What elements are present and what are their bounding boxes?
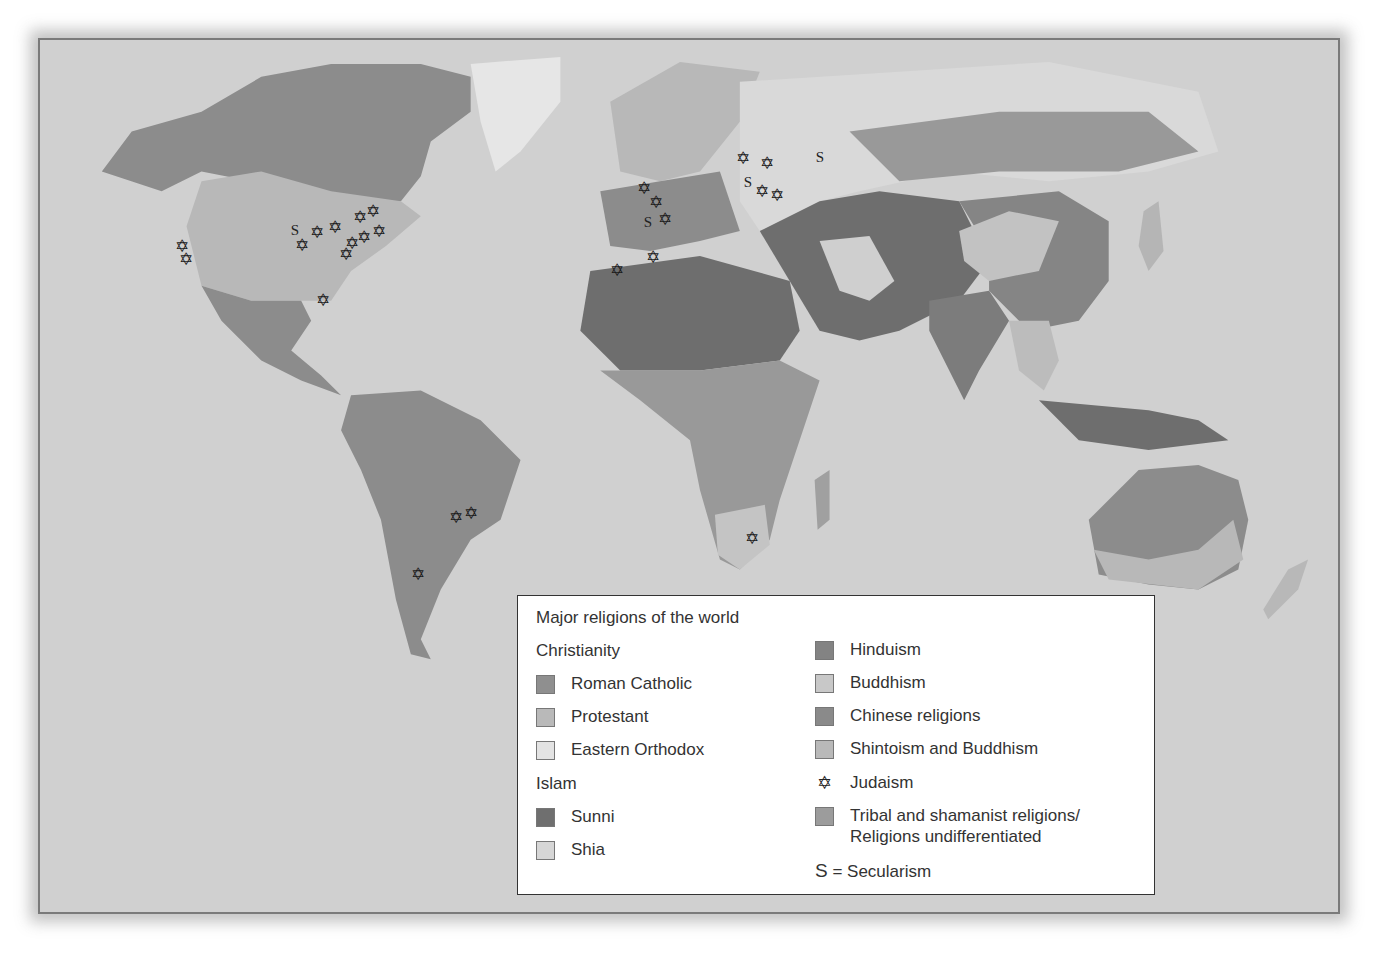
swatch-tribal: [815, 807, 834, 826]
judaism-star-icon: ✡: [179, 251, 193, 268]
legend-label: Chinese religions: [850, 706, 980, 726]
secularism-marker: S: [816, 149, 824, 166]
judaism-star-icon: ✡: [646, 249, 660, 266]
legend-item-chinese-religions: Chinese religions: [815, 706, 980, 726]
legend-heading-christianity: Christianity: [536, 641, 620, 661]
judaism-star-icon: ✡: [328, 219, 342, 236]
judaism-star-icon: ✡: [755, 183, 769, 200]
judaism-star-icon: ✡: [339, 246, 353, 263]
legend-label: Sunni: [571, 807, 614, 827]
legend: Major religions of the world Christianit…: [517, 595, 1155, 895]
judaism-star-icon: ✡: [449, 509, 463, 526]
legend-item-protestant: Protestant: [536, 707, 649, 727]
judaism-star-icon: ✡: [316, 292, 330, 309]
legend-label: Hinduism: [850, 640, 921, 660]
swatch-hinduism: [815, 641, 834, 660]
judaism-star-icon: ✡: [745, 530, 759, 547]
secularism-marker: S: [744, 174, 752, 191]
legend-label: Shia: [571, 840, 605, 860]
swatch-chinese-religions: [815, 707, 834, 726]
swatch-shintoism-buddhism: [815, 740, 834, 759]
legend-item-shintoism-buddhism: Shintoism and Buddhism: [815, 739, 1038, 759]
legend-label: Eastern Orthodox: [571, 740, 704, 760]
star-of-david-icon: ✡: [815, 772, 834, 794]
legend-item-eastern-orthodox: Eastern Orthodox: [536, 740, 704, 760]
legend-label: Tribal and shamanist religions/ Religion…: [850, 805, 1080, 847]
judaism-star-icon: ✡: [372, 223, 386, 240]
legend-label-line2: Religions undifferentiated: [850, 827, 1042, 846]
secularism-marker: S: [291, 222, 299, 239]
legend-title: Major religions of the world: [536, 608, 739, 628]
legend-item-secularism: S = Secularism: [815, 860, 931, 882]
legend-label: Protestant: [571, 707, 649, 727]
legend-label: Buddhism: [850, 673, 926, 693]
swatch-buddhism: [815, 674, 834, 693]
legend-item-shia: Shia: [536, 840, 605, 860]
secularism-label: = Secularism: [828, 862, 931, 881]
judaism-star-icon: ✡: [658, 211, 672, 228]
swatch-eastern-orthodox: [536, 741, 555, 760]
judaism-star-icon: ✡: [464, 505, 478, 522]
legend-item-tribal: Tribal and shamanist religions/ Religion…: [815, 805, 1080, 847]
swatch-protestant: [536, 708, 555, 727]
judaism-star-icon: ✡: [295, 237, 309, 254]
legend-item-hinduism: Hinduism: [815, 640, 921, 660]
judaism-star-icon: ✡: [649, 194, 663, 211]
judaism-star-icon: ✡: [610, 262, 624, 279]
secularism-symbol: S: [815, 860, 828, 881]
secularism-marker: S: [644, 214, 652, 231]
judaism-star-icon: ✡: [760, 155, 774, 172]
swatch-sunni: [536, 808, 555, 827]
legend-label: Roman Catholic: [571, 674, 692, 694]
legend-heading-islam: Islam: [536, 774, 577, 794]
swatch-roman-catholic: [536, 675, 555, 694]
judaism-star-icon: ✡: [366, 203, 380, 220]
legend-item-roman-catholic: Roman Catholic: [536, 674, 692, 694]
judaism-star-icon: ✡: [736, 150, 750, 167]
legend-item-judaism: ✡ Judaism: [815, 772, 913, 794]
judaism-star-icon: ✡: [770, 187, 784, 204]
legend-item-buddhism: Buddhism: [815, 673, 926, 693]
judaism-star-icon: ✡: [411, 566, 425, 583]
legend-label: Judaism: [850, 773, 913, 793]
legend-label: Shintoism and Buddhism: [850, 739, 1038, 759]
swatch-shia: [536, 841, 555, 860]
legend-item-sunni: Sunni: [536, 807, 614, 827]
legend-label-line1: Tribal and shamanist religions/: [850, 806, 1080, 825]
judaism-star-icon: ✡: [310, 224, 324, 241]
